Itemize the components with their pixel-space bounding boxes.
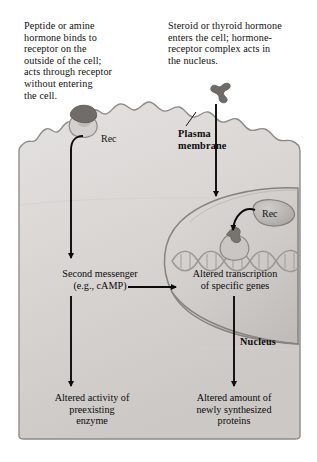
label-nucleus: Nucleus [240,336,276,348]
flow-altered-transcription: Altered transcription of specific genes [168,268,302,291]
caption-steroid-hormone: Steroid or thyroid hormone enters the ce… [168,20,314,66]
peptide-hormone-shape [70,105,96,122]
flow-altered-enzyme-activity: Altered activity of preexisting enzyme [26,392,158,427]
flow-second-messenger: Second messenger (e.g., cAMP) [38,268,162,291]
caption-peptide-hormone: Peptide or amine hormone binds to recept… [24,20,156,101]
steroid-hormone-shape [211,83,230,103]
label-receptor-nucleus: Rec [262,208,278,219]
figure-canvas: Peptide or amine hormone binds to recept… [0,0,317,462]
label-receptor-membrane: Rec [101,133,117,144]
label-plasma-membrane: Plasma membrane [178,128,270,151]
flow-altered-protein-amount: Altered amount of newly synthesized prot… [168,392,300,427]
